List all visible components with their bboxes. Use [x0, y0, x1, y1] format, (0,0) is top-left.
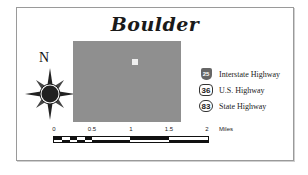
scale-units: Miles [219, 126, 233, 132]
scale-tick: 0.5 [88, 126, 96, 132]
scale-tick: 1 [129, 126, 132, 132]
legend-label: U.S. Highway [219, 86, 265, 95]
scale-bar: 0 0.5 1 1.5 2 Miles [51, 126, 251, 156]
scale-tick: 0 [52, 126, 55, 132]
legend-label: State Highway [219, 102, 266, 111]
legend-item-interstate: 25 Interstate Highway [199, 66, 280, 82]
scale-tick: 2 [205, 126, 208, 132]
state-highway-shield-icon: 83 [199, 100, 213, 112]
map-layout-frame: Boulder N 25 Interstate Highway 36 U.S. … [16, 7, 294, 161]
interstate-shield-icon: 25 [201, 68, 212, 80]
map-title: Boulder [17, 13, 293, 35]
us-highway-shield-icon: 36 [199, 84, 213, 96]
legend-item-us-highway: 36 U.S. Highway [199, 82, 280, 98]
scale-bar-graphic [53, 136, 209, 143]
point-of-interest-marker [132, 59, 138, 65]
legend-item-state-highway: 83 State Highway [199, 98, 280, 114]
legend-label: Interstate Highway [219, 70, 280, 79]
legend: 25 Interstate Highway 36 U.S. Highway 83… [199, 66, 280, 114]
boulder-map-area [73, 41, 181, 122]
scale-tick: 1.5 [165, 126, 173, 132]
compass-rose-icon [25, 60, 75, 120]
